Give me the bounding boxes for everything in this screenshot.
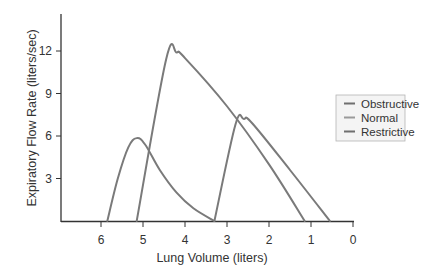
y-tick-label: 9 xyxy=(45,87,52,101)
x-tick-label: 6 xyxy=(98,233,105,247)
y-tick-label: 12 xyxy=(39,44,53,58)
legend: Obstructive Normal Restrictive xyxy=(336,95,419,141)
y-tick-label: 3 xyxy=(45,172,52,186)
y-ticks: 36912 xyxy=(39,44,61,186)
x-tick-label: 0 xyxy=(350,233,357,247)
curve-obstructive xyxy=(107,138,214,221)
legend-label-restrictive: Restrictive xyxy=(361,126,415,138)
y-tick-label: 6 xyxy=(45,129,52,143)
x-tick-label: 4 xyxy=(182,233,189,247)
legend-label-obstructive: Obstructive xyxy=(361,98,419,110)
y-axis-label: Expiratory Flow Rate (liters/sec) xyxy=(25,29,39,206)
x-tick-label: 1 xyxy=(308,233,315,247)
curves xyxy=(107,44,330,221)
axes xyxy=(61,14,354,222)
x-tick-label: 5 xyxy=(140,233,147,247)
x-tick-label: 3 xyxy=(224,233,231,247)
flow-volume-chart: 36912 6543210 Expiratory Flow Rate (lite… xyxy=(0,0,436,280)
x-axis-label: Lung Volume (liters) xyxy=(156,251,267,265)
legend-label-normal: Normal xyxy=(361,112,398,124)
x-tick-label: 2 xyxy=(266,233,273,247)
x-ticks: 6543210 xyxy=(98,222,357,247)
